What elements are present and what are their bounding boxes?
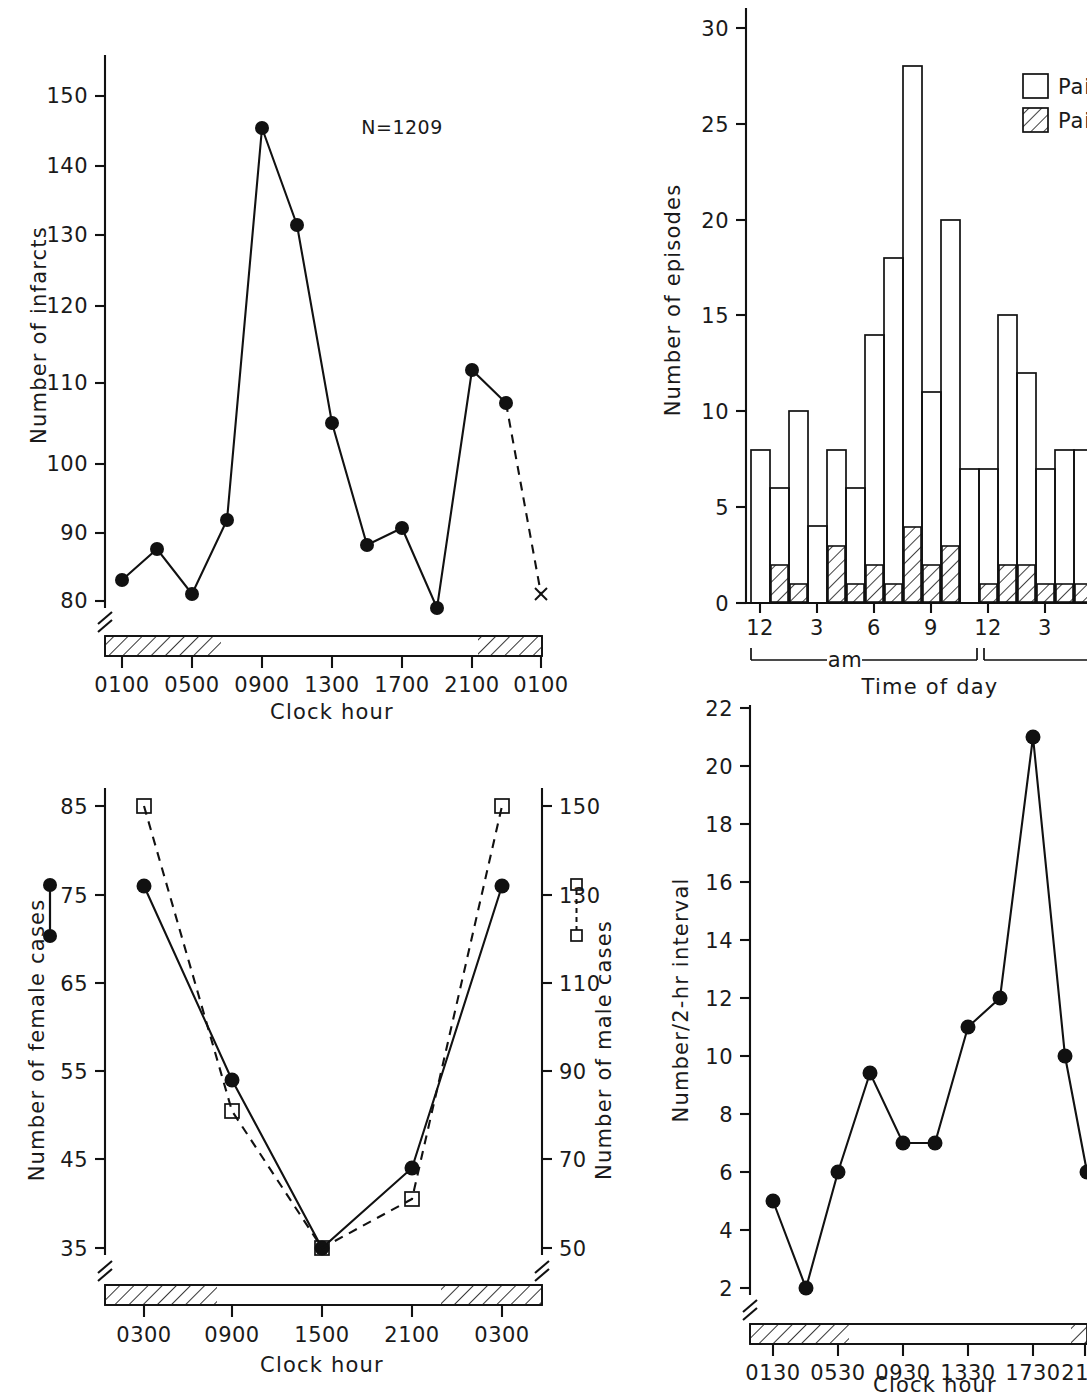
bars-hatched xyxy=(771,527,1087,602)
x-axis-ticks xyxy=(760,603,1045,613)
y-axis-right-ticks xyxy=(542,806,552,1248)
svg-text:45: 45 xyxy=(60,1148,88,1172)
svg-text:0100: 0100 xyxy=(94,673,149,697)
svg-text:80: 80 xyxy=(60,589,88,613)
x-axis-ticks xyxy=(144,1305,502,1317)
chart-infarcts-by-clock-hour: 80 90 100 110 120 130 140 150 Number of … xyxy=(0,0,600,720)
legend: Pain Pain xyxy=(1023,74,1087,133)
y-axis-right-title: Number of male cases xyxy=(592,920,616,1180)
y-axis-left-ticks xyxy=(95,806,105,1248)
data-markers xyxy=(115,121,513,615)
day-night-bar xyxy=(105,636,542,656)
svg-text:0130: 0130 xyxy=(745,1361,800,1385)
svg-text:70: 70 xyxy=(559,1148,587,1172)
y-axis-ticks xyxy=(740,708,750,1288)
data-line-male xyxy=(144,806,502,1248)
svg-text:1730: 1730 xyxy=(1005,1361,1060,1385)
svg-text:140: 140 xyxy=(46,154,88,178)
data-marker-x xyxy=(535,588,547,600)
x-axis-tick-labels: 0300 0900 1500 2100 0300 xyxy=(116,1323,529,1347)
x-axis-ticks xyxy=(122,656,541,668)
svg-text:110: 110 xyxy=(46,371,88,395)
y-axis-tick-labels: 80 90 100 110 120 130 140 150 xyxy=(46,84,88,613)
svg-text:130: 130 xyxy=(559,884,601,908)
data-line-solid xyxy=(122,128,506,608)
svg-text:30: 30 xyxy=(701,17,729,41)
axis-break-marker xyxy=(743,1300,757,1320)
data-line xyxy=(773,737,1087,1288)
svg-text:1700: 1700 xyxy=(374,673,429,697)
svg-text:2100: 2100 xyxy=(444,673,499,697)
data-line-female xyxy=(144,886,502,1248)
svg-text:12: 12 xyxy=(705,987,733,1011)
svg-text:150: 150 xyxy=(559,795,601,819)
sample-size-annotation: N=1209 xyxy=(361,116,443,138)
svg-text:6: 6 xyxy=(719,1161,733,1185)
svg-text:50: 50 xyxy=(559,1237,587,1261)
svg-text:12: 12 xyxy=(974,616,1002,640)
am-bracket xyxy=(751,648,977,660)
svg-text:150: 150 xyxy=(46,84,88,108)
svg-text:120: 120 xyxy=(46,294,88,318)
legend-swatch-painless xyxy=(1023,74,1048,98)
x-axis-title: Clock hour xyxy=(260,1353,384,1377)
data-markers-female xyxy=(137,879,510,1256)
svg-text:1300: 1300 xyxy=(304,673,359,697)
axis-break-marker xyxy=(98,612,112,632)
y-axis-title: Number of infarcts xyxy=(27,226,51,444)
legend-label-painful: Pain xyxy=(1058,109,1087,133)
chart-episodes-by-time-of-day: 0 5 10 15 20 25 30 Number of episodes xyxy=(640,0,1087,690)
axis-break-left xyxy=(98,1261,112,1281)
svg-text:130: 130 xyxy=(46,223,88,247)
svg-text:20: 20 xyxy=(701,209,729,233)
svg-text:5: 5 xyxy=(715,496,729,520)
am-bracket-label: am xyxy=(828,648,862,672)
y-axis-title: Number/2-hr interval xyxy=(669,877,693,1122)
svg-text:85: 85 xyxy=(60,795,88,819)
svg-text:0: 0 xyxy=(715,592,729,616)
svg-text:100: 100 xyxy=(46,452,88,476)
pm-bracket xyxy=(984,648,1087,660)
data-line-dashed-tail xyxy=(506,403,541,594)
y-axis-tick-labels: 0 5 10 15 20 25 30 xyxy=(701,17,729,616)
bars-total xyxy=(751,66,1087,603)
svg-text:90: 90 xyxy=(559,1060,587,1084)
svg-text:35: 35 xyxy=(60,1237,88,1261)
svg-text:9: 9 xyxy=(924,616,938,640)
chart-female-male-cases-by-clock-hour: 35 45 55 65 75 85 Number of female cases… xyxy=(0,740,620,1392)
svg-text:25: 25 xyxy=(701,113,729,137)
x-axis-title: Clock hour xyxy=(270,700,394,724)
svg-text:0530: 0530 xyxy=(810,1361,865,1385)
svg-text:2: 2 xyxy=(719,1277,733,1301)
svg-text:0300: 0300 xyxy=(116,1323,171,1347)
svg-text:0900: 0900 xyxy=(234,673,289,697)
axis-break-right xyxy=(535,1261,549,1281)
y-axis-tick-labels: 2 4 6 8 10 12 14 16 18 20 22 xyxy=(705,697,733,1301)
svg-text:0900: 0900 xyxy=(204,1323,259,1347)
svg-text:6: 6 xyxy=(867,616,881,640)
y-axis-title: Number of episodes xyxy=(661,184,685,417)
svg-text:16: 16 xyxy=(705,871,733,895)
svg-text:55: 55 xyxy=(60,1060,88,1084)
svg-text:75: 75 xyxy=(60,884,88,908)
svg-text:8: 8 xyxy=(719,1103,733,1127)
svg-text:2100: 2100 xyxy=(384,1323,439,1347)
svg-text:0500: 0500 xyxy=(164,673,219,697)
x-axis-ticks xyxy=(773,1344,1085,1356)
svg-text:0300: 0300 xyxy=(474,1323,529,1347)
legend-swatch-painful xyxy=(1023,108,1048,132)
chart-number-per-2hr-interval: 2 4 6 8 10 12 14 16 18 20 22 Number/2-hr… xyxy=(640,670,1087,1392)
svg-text:10: 10 xyxy=(701,400,729,424)
data-markers xyxy=(766,730,1087,1296)
x-axis-tick-labels: 0100 0500 0900 1300 1700 2100 0100 xyxy=(94,673,568,697)
svg-text:1500: 1500 xyxy=(294,1323,349,1347)
svg-text:2130: 2130 xyxy=(1061,1361,1087,1385)
svg-text:14: 14 xyxy=(705,929,733,953)
data-markers-male xyxy=(137,799,509,1255)
y-axis-ticks xyxy=(736,28,746,603)
svg-text:65: 65 xyxy=(60,972,88,996)
y-axis-ticks xyxy=(95,96,105,601)
legend-label-painless: Pain xyxy=(1058,75,1087,99)
x-axis-tick-labels: 12 3 6 9 12 3 xyxy=(746,616,1052,640)
svg-text:90: 90 xyxy=(60,521,88,545)
